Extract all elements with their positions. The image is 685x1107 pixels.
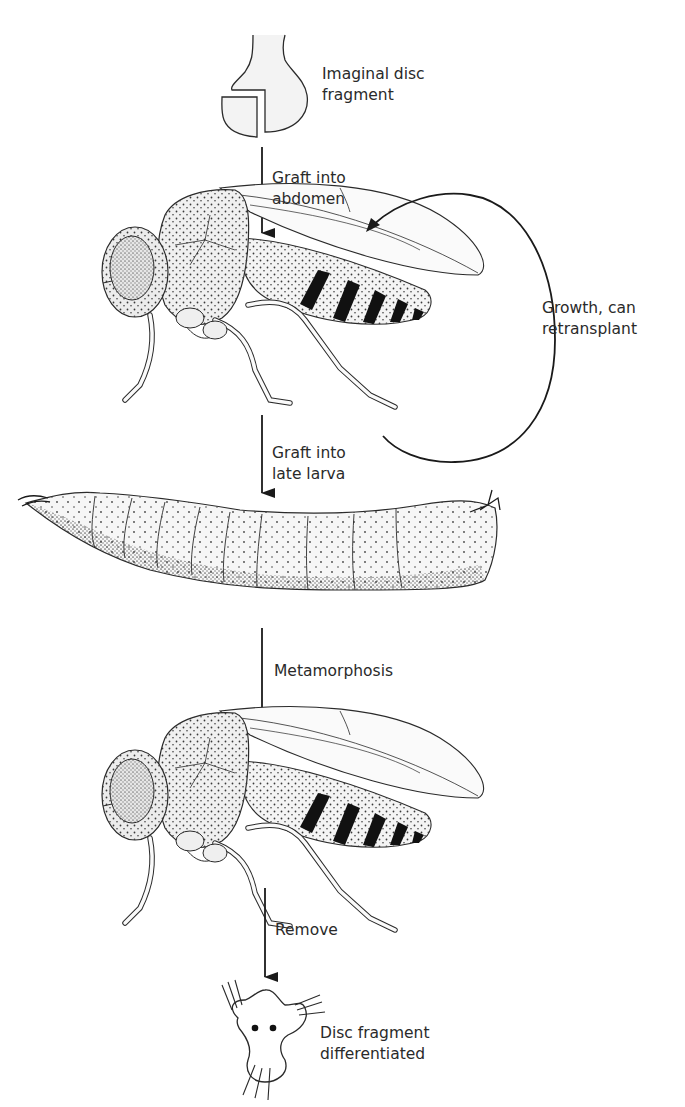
label-growth-retransplant: Growth, can retransplant [542,298,637,340]
label-line: fragment [322,85,425,106]
differentiated-disc-icon [222,980,325,1100]
label-line: Growth, can [542,298,637,319]
adult-fly-after-metamorphosis-icon [102,707,484,930]
label-line: differentiated [320,1044,429,1065]
label-line: late larva [272,464,346,485]
label-line: Graft into [272,443,346,464]
label-disc-differentiated: Disc fragment differentiated [320,1023,429,1065]
label-line: Imaginal disc [322,64,425,85]
label-graft-abdomen: Graft into abdomen [272,168,346,210]
label-line: Graft into [272,168,346,189]
label-line: abdomen [272,189,346,210]
label-metamorphosis: Metamorphosis [274,661,393,682]
label-remove: Remove [275,920,338,941]
imaginal-disc-icon [222,35,308,137]
label-graft-larva: Graft into late larva [272,443,346,485]
diagram-canvas [0,0,685,1107]
label-imaginal-disc: Imaginal disc fragment [322,64,425,106]
label-line: retransplant [542,319,637,340]
label-line: Metamorphosis [274,661,393,682]
label-line: Disc fragment [320,1023,429,1044]
larva-host-icon [18,490,500,590]
label-line: Remove [275,920,338,941]
adult-fly-host-icon [102,184,484,407]
